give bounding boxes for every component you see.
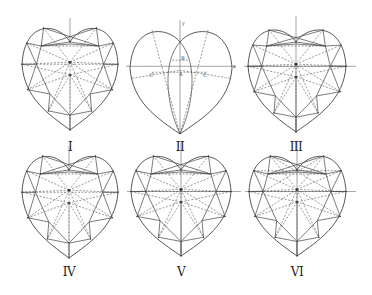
svg-text:x: x	[233, 63, 236, 69]
heart-cuts-diagram: yxC'CAB	[0, 0, 372, 295]
heart-label-iv: IV	[63, 266, 75, 278]
heart-label-i: I	[68, 141, 72, 153]
svg-text:A: A	[178, 71, 183, 77]
svg-text:C: C	[203, 72, 207, 78]
heart-label-vi: VI	[291, 266, 303, 278]
heart-vi	[245, 142, 356, 257]
heart-iii	[244, 16, 356, 133]
heart-label-ii: II	[176, 141, 184, 153]
heart-iv	[21, 146, 118, 259]
heart-v	[127, 142, 241, 257]
heart-label-v: V	[177, 266, 185, 278]
heart-i	[21, 18, 118, 131]
heart-label-iii: III	[290, 141, 303, 153]
svg-text:y: y	[181, 20, 185, 27]
svg-text:B: B	[181, 55, 185, 61]
heart-ii: yxC'CAB	[126, 20, 236, 134]
svg-text:C': C'	[149, 72, 154, 78]
